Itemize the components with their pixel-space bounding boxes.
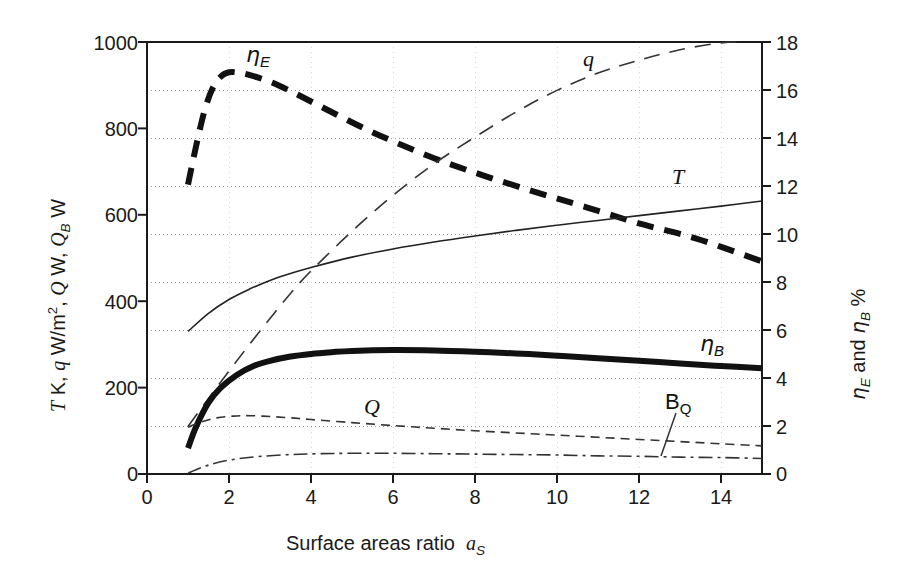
- ytick-right-2: 2: [776, 417, 787, 437]
- curve-label-B-Q: BQ: [665, 391, 691, 417]
- ytick-right-6: 6: [776, 321, 787, 341]
- ytick-right-8: 8: [776, 273, 787, 293]
- y-left-seg-QB: Q: [47, 232, 69, 246]
- y-left-seg-w2: W: [47, 199, 69, 223]
- xtick-12: 12: [619, 487, 659, 507]
- ytick-right-12: 12: [776, 177, 798, 197]
- y-left-seg-QB-sub: B: [58, 223, 73, 232]
- curve-B_Q: [188, 453, 762, 473]
- y-left-seg-Q: Q: [47, 281, 69, 295]
- ytick-right-4: 4: [776, 369, 787, 389]
- curve-label-T: T: [672, 166, 684, 188]
- y-left-seg-wm: W/m: [47, 314, 69, 361]
- B-sub: Q: [680, 400, 692, 417]
- ytick-left-0: 0: [58, 464, 138, 484]
- eta-B-sub: B: [714, 342, 724, 359]
- y-axis-left-title: T K, q W/m2, Q W, QB W: [46, 199, 72, 412]
- y-right-seg-eta2: η: [846, 321, 870, 334]
- xtick-2: 2: [209, 487, 249, 507]
- y-right-seg-percent: %: [847, 289, 869, 312]
- y-right-seg-eta2-sub: B: [858, 312, 873, 321]
- curve-label-q: q: [583, 48, 594, 70]
- curve-T: [188, 201, 762, 331]
- y-left-seg-q: q: [47, 361, 69, 371]
- y-left-seg-K: K,: [47, 371, 69, 401]
- ytick-right-14: 14: [776, 129, 798, 149]
- eta-E-glyph: η: [246, 42, 260, 67]
- leader-lines: [661, 413, 676, 456]
- y-axis-right-title: ηE and ηB %: [848, 289, 873, 400]
- y-right-seg-eta1-sub: E: [858, 378, 873, 387]
- xtick-14: 14: [701, 487, 741, 507]
- y-right-seg-eta1: η: [846, 387, 870, 400]
- y-right-seg-and: and: [847, 334, 869, 378]
- curve-Q: [188, 416, 762, 446]
- curve-label-eta-B: ηB: [700, 333, 724, 359]
- ytick-right-0: 0: [776, 464, 787, 484]
- ytick-right-18: 18: [776, 33, 798, 53]
- xtick-8: 8: [455, 487, 495, 507]
- x-title-symbol-sub: S: [476, 543, 485, 558]
- ytick-left-1000: 1000: [58, 33, 138, 53]
- y-left-seg-sup2: 2: [45, 307, 60, 314]
- x-axis-title: Surface areas ratio aS: [286, 533, 485, 558]
- xtick-4: 4: [291, 487, 331, 507]
- curve-label-eta-E: ηE: [246, 44, 270, 70]
- xtick-10: 10: [537, 487, 577, 507]
- xtick-6: 6: [373, 487, 413, 507]
- x-title-symbol: a: [466, 532, 476, 554]
- ytick-right-16: 16: [776, 81, 798, 101]
- ytick-right-10: 10: [776, 225, 798, 245]
- eta-B-glyph: η: [700, 331, 714, 356]
- chart-figure: 1000 800 600 400 200 0 18 16 14 12 10 8 …: [0, 0, 901, 578]
- ytick-left-800: 800: [58, 119, 138, 139]
- curve-label-Q: Q: [364, 396, 380, 418]
- y-left-seg-w1: W,: [47, 247, 69, 281]
- x-title-text: Surface areas ratio: [286, 532, 455, 554]
- B-glyph: B: [665, 389, 680, 414]
- xtick-0: 0: [127, 487, 167, 507]
- eta-E-sub: E: [260, 53, 270, 70]
- y-left-seg-T: T: [47, 401, 69, 412]
- y-left-seg-comma: ,: [47, 296, 69, 307]
